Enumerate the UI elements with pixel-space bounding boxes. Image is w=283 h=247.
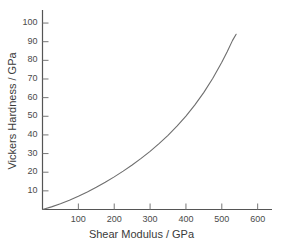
x-tick-label: 400 bbox=[173, 215, 199, 224]
data-series-line bbox=[43, 34, 237, 209]
y-tick-label: 40 bbox=[16, 130, 38, 139]
x-tick-marks bbox=[78, 204, 257, 210]
y-tick-label: 50 bbox=[16, 111, 38, 120]
y-tick-label: 30 bbox=[16, 149, 38, 158]
x-tick-label: 100 bbox=[65, 215, 91, 224]
x-tick-label: 600 bbox=[245, 215, 271, 224]
x-tick-label: 300 bbox=[137, 215, 163, 224]
chart-figure: 102030405060708090100 100200300400500600… bbox=[0, 0, 283, 247]
y-tick-label: 80 bbox=[16, 55, 38, 64]
y-tick-label: 20 bbox=[16, 167, 38, 176]
y-tick-label: 90 bbox=[16, 37, 38, 46]
axis-lines bbox=[42, 10, 272, 210]
x-tick-label: 500 bbox=[209, 215, 235, 224]
x-tick-label: 200 bbox=[101, 215, 127, 224]
y-tick-label: 60 bbox=[16, 93, 38, 102]
y-axis-title: Vickers Hardness / GPa bbox=[6, 11, 18, 211]
y-tick-label: 100 bbox=[16, 18, 38, 27]
plot-area bbox=[0, 0, 283, 247]
x-axis-title: Shear Modulus / GPa bbox=[0, 228, 283, 240]
y-tick-label: 70 bbox=[16, 74, 38, 83]
y-tick-marks bbox=[43, 23, 49, 191]
y-tick-label: 10 bbox=[16, 186, 38, 195]
